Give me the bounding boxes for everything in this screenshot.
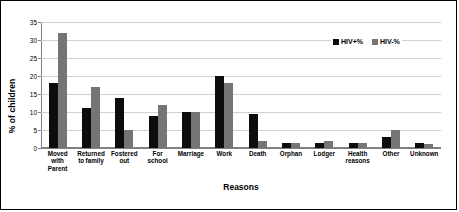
legend-swatch-icon [333, 39, 339, 45]
bar [49, 83, 58, 148]
y-axis-tick-mark [38, 148, 41, 149]
bar-group [174, 22, 207, 148]
y-axis-tick-label: 5 [33, 127, 37, 134]
legend-label: HIV-% [380, 38, 400, 45]
x-axis-category-label: Lodger [308, 150, 341, 180]
bar [291, 143, 300, 148]
bar [115, 98, 124, 148]
y-axis-title-text: % of children [7, 79, 17, 134]
legend-swatch-icon [372, 39, 378, 45]
bar-group [141, 22, 174, 148]
x-axis-category-label: Orphan [274, 150, 307, 180]
bar [315, 143, 324, 148]
y-axis-tick-label: 0 [33, 145, 37, 152]
chart-figure: % of children 05101520253035 Moved with … [0, 0, 457, 210]
y-axis-tick-label: 10 [30, 109, 37, 116]
bar [191, 112, 200, 148]
x-axis-category-label: Fostered out [108, 150, 141, 180]
y-axis-tick-label: 25 [30, 55, 37, 62]
bar [382, 137, 391, 148]
bar [58, 33, 67, 148]
gridline [41, 148, 441, 149]
x-axis-category-label: Death [241, 150, 274, 180]
bar [82, 108, 91, 148]
x-axis-category-label: Health reasons [341, 150, 374, 180]
legend-item: HIV+% [333, 38, 363, 45]
x-axis-category-label: Unknown [408, 150, 441, 180]
bar-group [41, 22, 74, 148]
bar [424, 144, 433, 148]
bar [149, 116, 158, 148]
x-axis-category-labels: Moved with ParentReturned to familyFoste… [41, 150, 441, 180]
bar [182, 112, 191, 148]
bar [324, 141, 333, 148]
x-axis-category-label: Work [208, 150, 241, 180]
bar-group [74, 22, 107, 148]
bar [215, 76, 224, 148]
bar [391, 130, 400, 148]
x-axis-category-label: Marriage [174, 150, 207, 180]
bar [158, 105, 167, 148]
bar [349, 143, 358, 148]
bar [91, 87, 100, 148]
bar [258, 141, 267, 148]
bar [415, 143, 424, 148]
y-axis-tick-label: 20 [30, 73, 37, 80]
bar-group [241, 22, 274, 148]
legend-label: HIV+% [341, 38, 363, 45]
legend-item: HIV-% [372, 38, 400, 45]
x-axis-category-label: For school [141, 150, 174, 180]
bar-group [108, 22, 141, 148]
y-axis-tick-label: 30 [30, 37, 37, 44]
y-axis-tick-label: 35 [30, 19, 37, 26]
bar [224, 83, 233, 148]
x-axis-category-label: Returned to family [74, 150, 107, 180]
bar [249, 114, 258, 148]
x-axis-category-label: Moved with Parent [41, 150, 74, 180]
bar [358, 143, 367, 148]
bar-group [208, 22, 241, 148]
x-axis-title: Reasons [41, 182, 441, 192]
chart-legend: HIV+%HIV-% [331, 37, 402, 46]
bar [282, 143, 291, 148]
y-axis-title: % of children [3, 1, 21, 211]
bar-group [408, 22, 441, 148]
bar-group [274, 22, 307, 148]
y-axis-tick-label: 15 [30, 91, 37, 98]
x-axis-category-label: Other [374, 150, 407, 180]
bar [124, 130, 133, 148]
